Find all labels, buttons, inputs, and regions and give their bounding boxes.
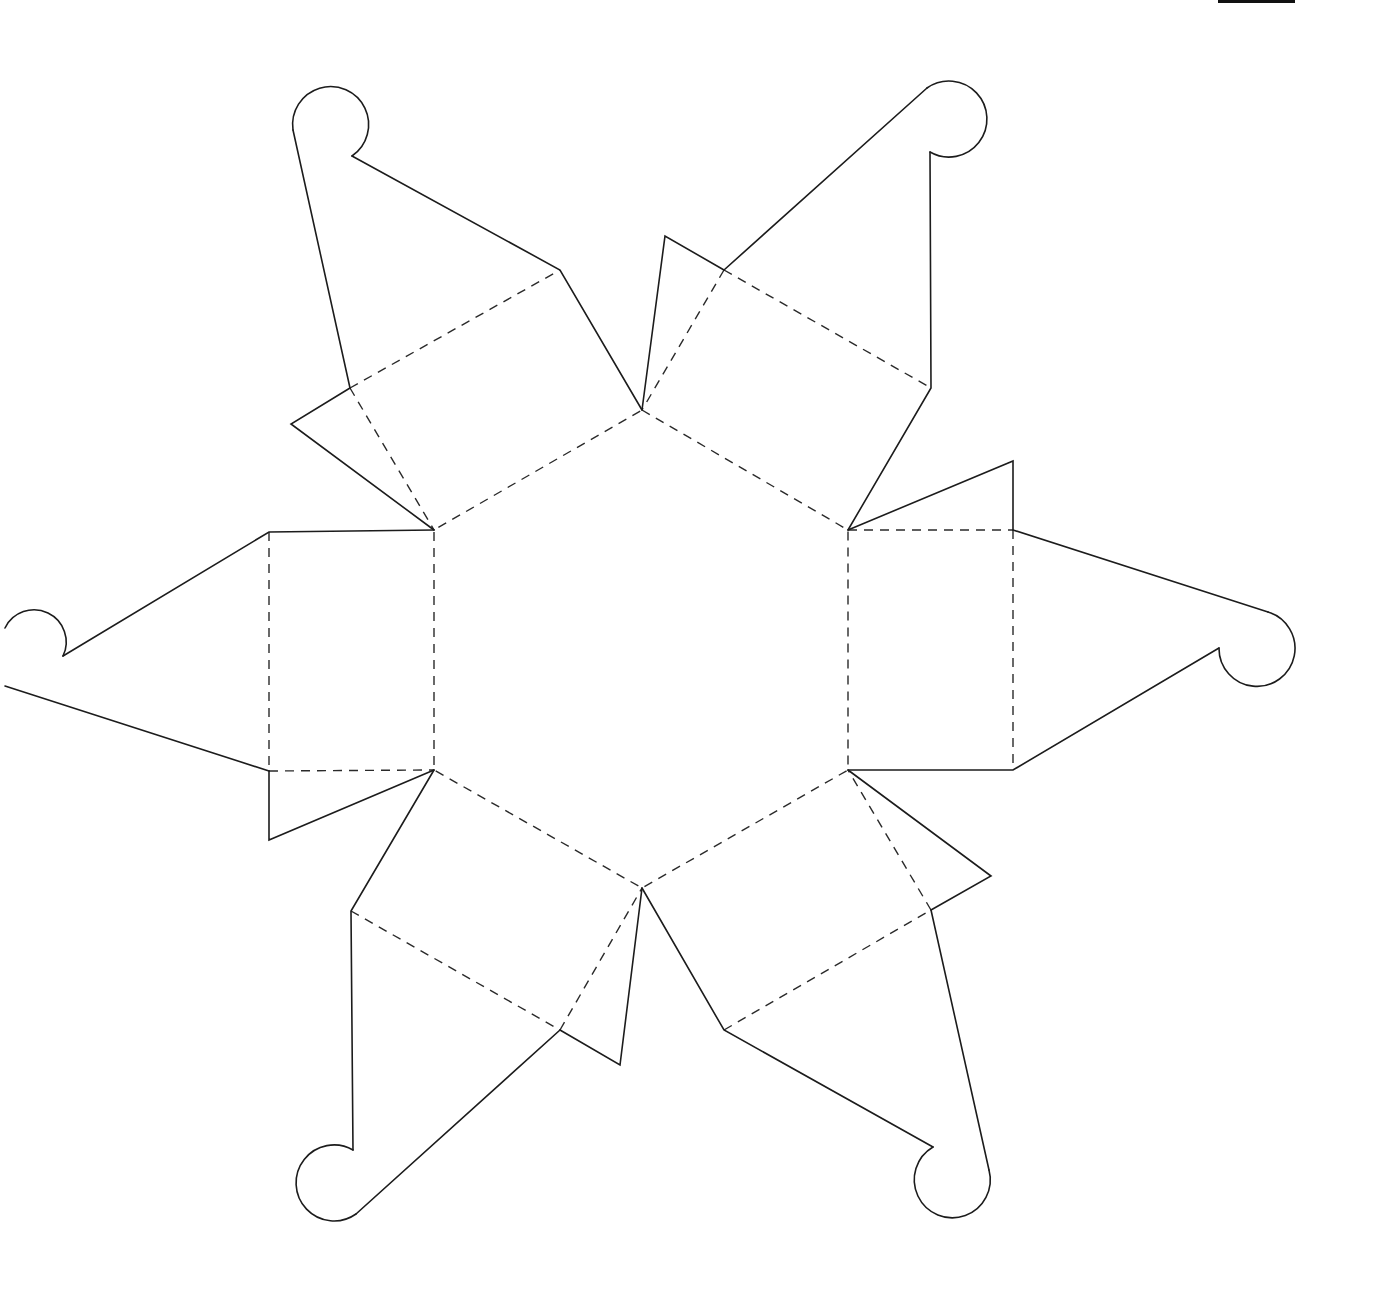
arm-top-right <box>642 81 987 530</box>
star-box-template <box>0 0 1375 1292</box>
arm-bottom-left <box>296 770 642 1221</box>
center-hexagon <box>434 410 848 888</box>
arm-top-left <box>291 87 642 530</box>
arm-bottom-right <box>642 770 991 1218</box>
arm-right <box>848 461 1295 770</box>
arm-left <box>5 530 434 840</box>
